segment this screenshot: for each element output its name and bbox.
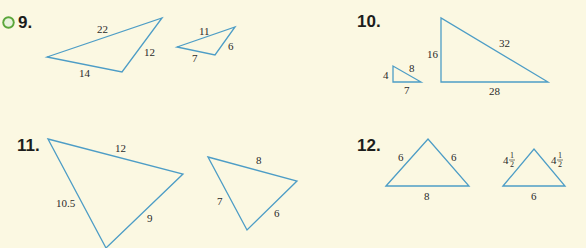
svg-text:2: 2 <box>558 160 562 169</box>
svg-text:4: 4 <box>503 154 509 166</box>
label-12-small-side-right: 4 1 2 <box>551 151 563 169</box>
label-12-small-side-bottom: 6 <box>531 190 537 202</box>
label-11-small-side-top: 8 <box>256 154 262 166</box>
label-9-large-side-right: 12 <box>144 46 155 58</box>
label-11-small-side-left: 7 <box>217 195 223 207</box>
label-10-large-side-hyp: 32 <box>499 37 510 49</box>
svg-text:4: 4 <box>551 154 557 166</box>
problem-9-figures: 22 12 14 11 6 7 <box>47 18 235 79</box>
triangle-11-small <box>208 157 297 230</box>
problem-11-figures: 12 9 10.5 8 6 7 <box>48 139 297 248</box>
label-10-small-side-bottom: 7 <box>404 84 410 96</box>
label-9-small-side-top: 11 <box>199 25 210 37</box>
label-11-large-side-right: 9 <box>147 212 153 224</box>
triangle-diagrams: 22 12 14 11 6 7 4 8 7 16 32 28 12 9 10.5… <box>0 0 586 248</box>
label-12-large-side-bottom: 8 <box>424 190 430 202</box>
label-11-large-side-top: 12 <box>115 142 126 154</box>
label-12-small-side-left: 4 1 2 <box>503 151 515 169</box>
problem-12-figures: 6 6 8 4 1 2 4 1 2 6 <box>386 139 565 202</box>
label-11-small-side-right: 6 <box>274 207 280 219</box>
label-9-large-side-top: 22 <box>97 23 108 35</box>
triangle-11-large <box>48 139 183 248</box>
label-10-small-side-hyp: 8 <box>409 62 415 74</box>
svg-text:2: 2 <box>510 160 514 169</box>
label-10-large-side-bottom: 28 <box>489 85 501 97</box>
label-11-large-side-left: 10.5 <box>56 197 76 209</box>
label-12-large-side-left: 6 <box>398 151 404 163</box>
problem-10-figures: 4 8 7 16 32 28 <box>383 18 548 97</box>
svg-text:1: 1 <box>558 151 562 160</box>
svg-text:1: 1 <box>510 151 514 160</box>
label-10-small-side-left: 4 <box>383 69 389 81</box>
label-12-large-side-right: 6 <box>451 151 457 163</box>
triangle-10-large <box>441 18 548 82</box>
label-9-large-side-bottom: 14 <box>79 67 91 79</box>
label-10-large-side-left: 16 <box>427 48 439 60</box>
triangle-10-small <box>393 66 421 82</box>
label-9-small-side-right: 6 <box>228 40 234 52</box>
label-9-small-side-bottom: 7 <box>192 52 198 64</box>
